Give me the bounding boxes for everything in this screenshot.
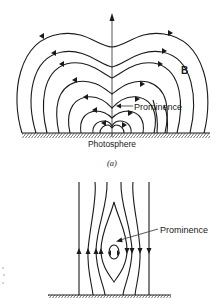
page-edge-marks [2,267,4,283]
prominence-label-a: Prominence [134,102,182,112]
photosphere-label: Photosphere [88,139,136,149]
panel-a: B Prominence Photosphere (a) [17,13,210,168]
prominence-callout-a: Prominence [116,102,182,112]
panel-b: Prominence [2,182,208,298]
photosphere-surface-a [22,133,210,138]
prominence-label-b: Prominence [160,225,208,235]
panel-a-caption: (a) [107,158,117,168]
field-label-b: B [181,65,188,76]
magnetic-field-lines-b [79,182,149,295]
prominence-magnetic-field-figure: B Prominence Photosphere (a) [0,0,224,298]
